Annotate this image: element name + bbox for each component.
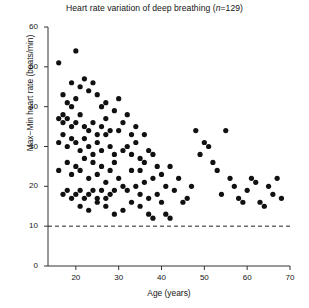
- data-point: [69, 136, 74, 141]
- data-point: [60, 112, 65, 117]
- data-point: [78, 168, 83, 173]
- data-point: [146, 212, 151, 217]
- data-point: [86, 192, 91, 197]
- data-point: [86, 208, 91, 213]
- data-point: [167, 216, 172, 221]
- chart-figure: Heart rate variation of deep breathing (…: [0, 0, 309, 308]
- data-point: [103, 196, 108, 201]
- data-point: [215, 168, 220, 173]
- data-point: [137, 192, 142, 197]
- data-point: [73, 96, 78, 101]
- y-axis-label: Max−Min heart rate (beats/min): [25, 8, 35, 178]
- data-point: [82, 196, 87, 201]
- data-point: [202, 140, 207, 145]
- scatter-plot-canvas: [0, 0, 309, 308]
- data-point: [86, 88, 91, 93]
- data-point: [129, 168, 134, 173]
- data-point: [82, 124, 87, 129]
- data-point: [90, 80, 95, 85]
- data-point: [159, 200, 164, 205]
- data-point: [232, 184, 237, 189]
- data-point: [210, 160, 215, 165]
- data-point: [103, 204, 108, 209]
- data-point: [95, 92, 100, 97]
- data-point: [240, 200, 245, 205]
- data-point: [163, 184, 168, 189]
- data-point: [185, 196, 190, 201]
- data-point: [193, 128, 198, 133]
- data-point: [249, 176, 254, 181]
- data-point: [82, 156, 87, 161]
- data-point: [82, 76, 87, 81]
- data-point: [257, 200, 262, 205]
- data-point: [56, 60, 61, 65]
- data-point: [129, 152, 134, 157]
- data-point: [95, 200, 100, 205]
- data-point: [65, 116, 70, 121]
- data-point: [90, 188, 95, 193]
- data-point: [69, 104, 74, 109]
- data-point: [137, 156, 142, 161]
- data-point: [262, 204, 267, 209]
- data-point: [99, 124, 104, 129]
- data-point: [266, 184, 271, 189]
- data-point: [90, 120, 95, 125]
- data-point: [236, 196, 241, 201]
- data-point: [103, 132, 108, 137]
- data-point: [112, 108, 117, 113]
- data-point: [65, 188, 70, 193]
- data-point: [65, 160, 70, 165]
- data-point: [180, 200, 185, 205]
- data-point: [60, 120, 65, 125]
- data-point: [219, 192, 224, 197]
- data-point: [69, 196, 74, 201]
- data-point: [60, 132, 65, 137]
- data-point: [172, 188, 177, 193]
- data-point: [133, 184, 138, 189]
- x-tick-label: 70: [279, 273, 301, 282]
- data-point: [223, 128, 228, 133]
- data-point: [133, 140, 138, 145]
- data-point: [99, 164, 104, 169]
- data-point: [73, 164, 78, 169]
- data-point: [108, 128, 113, 133]
- data-point: [108, 192, 113, 197]
- data-point: [125, 112, 130, 117]
- data-point: [86, 176, 91, 181]
- data-point: [129, 200, 134, 205]
- data-point: [129, 132, 134, 137]
- x-tick-label: 20: [65, 273, 87, 282]
- data-point: [112, 188, 117, 193]
- data-point: [78, 148, 83, 153]
- data-point: [60, 92, 65, 97]
- data-point: [73, 140, 78, 145]
- data-point: [120, 184, 125, 189]
- data-point: [86, 128, 91, 133]
- data-point: [137, 168, 142, 173]
- data-point: [150, 216, 155, 221]
- data-point: [82, 136, 87, 141]
- data-point: [108, 168, 113, 173]
- data-point: [125, 144, 130, 149]
- data-point: [78, 112, 83, 117]
- data-point: [133, 124, 138, 129]
- data-point: [142, 132, 147, 137]
- data-point: [112, 160, 117, 165]
- data-point: [197, 152, 202, 157]
- data-point: [69, 124, 74, 129]
- data-point: [146, 196, 151, 201]
- data-point: [86, 144, 91, 149]
- data-point: [120, 208, 125, 213]
- data-point: [99, 188, 104, 193]
- data-point: [120, 148, 125, 153]
- data-point: [155, 164, 160, 169]
- data-point: [95, 132, 100, 137]
- x-ticks-group: [76, 266, 290, 270]
- data-point: [270, 192, 275, 197]
- data-point: [90, 152, 95, 157]
- data-point: [112, 152, 117, 157]
- data-point: [103, 180, 108, 185]
- data-point: [103, 100, 108, 105]
- data-point: [69, 172, 74, 177]
- data-point: [142, 160, 147, 165]
